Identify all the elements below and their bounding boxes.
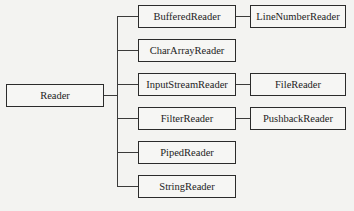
node-label: PipedReader: [160, 147, 214, 158]
node-label: PushbackReader: [263, 113, 333, 124]
connector-buffered-to-linenumber: [236, 16, 250, 17]
connector-branch-chararray: [117, 50, 138, 51]
node-filter-reader: FilterReader: [138, 107, 236, 130]
class-hierarchy-diagram: Reader BufferedReader CharArrayReader In…: [0, 0, 354, 211]
connector-branch-string: [117, 186, 138, 187]
node-label: InputStreamReader: [146, 79, 228, 90]
node-label: FileReader: [275, 79, 321, 90]
node-buffered-reader: BufferedReader: [138, 5, 236, 28]
node-reader: Reader: [6, 84, 104, 107]
connector-root-to-trunk: [104, 95, 117, 96]
node-string-reader: StringReader: [138, 175, 236, 198]
connector-branch-filter: [117, 118, 138, 119]
connector-branch-inputstream: [117, 84, 138, 85]
node-label: StringReader: [159, 181, 214, 192]
connector-filter-to-pushback: [236, 118, 250, 119]
node-label: CharArrayReader: [150, 45, 225, 56]
connector-branch-buffered: [117, 16, 138, 17]
node-input-stream-reader: InputStreamReader: [138, 73, 236, 96]
node-label: LineNumberReader: [256, 11, 339, 22]
node-label: FilterReader: [161, 113, 213, 124]
node-char-array-reader: CharArrayReader: [138, 39, 236, 62]
node-line-number-reader: LineNumberReader: [250, 5, 346, 28]
node-label: BufferedReader: [154, 11, 221, 22]
node-pushback-reader: PushbackReader: [250, 107, 346, 130]
connector-branch-piped: [117, 152, 138, 153]
connector-trunk: [117, 16, 118, 187]
node-file-reader: FileReader: [250, 73, 346, 96]
node-piped-reader: PipedReader: [138, 141, 236, 164]
connector-inputstream-to-file: [236, 84, 250, 85]
node-label: Reader: [40, 90, 70, 101]
